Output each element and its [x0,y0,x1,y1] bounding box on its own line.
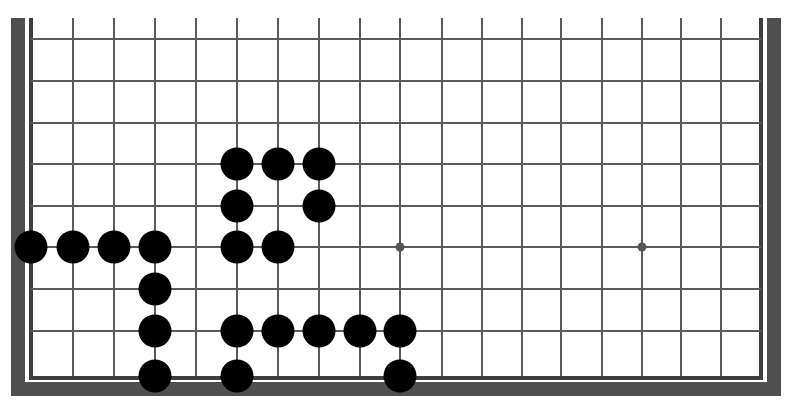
grid-line-vertical [113,18,115,376]
grid-line-vertical [481,18,483,376]
grid-line-vertical [680,18,682,376]
black-stone[interactable] [303,315,336,348]
grid-line-vertical [195,18,197,376]
board-frame-right [767,18,781,396]
black-stone[interactable] [221,360,254,393]
black-stone[interactable] [221,190,254,223]
black-stone[interactable] [139,315,172,348]
grid-line-vertical [441,18,443,376]
black-stone[interactable] [139,273,172,306]
grid-line-vertical [560,18,562,376]
black-stone[interactable] [303,148,336,181]
black-stone[interactable] [221,231,254,264]
board-edge-left [29,18,33,380]
grid-line-vertical [72,18,74,376]
grid-line-horizontal [31,163,761,165]
black-stone[interactable] [98,231,131,264]
black-stone[interactable] [57,231,90,264]
grid-line-vertical [720,18,722,376]
board-frame-left [11,18,25,396]
black-stone[interactable] [139,231,172,264]
black-stone[interactable] [384,360,417,393]
black-stone[interactable] [221,148,254,181]
black-stone[interactable] [384,315,417,348]
black-stone[interactable] [262,148,295,181]
black-stone[interactable] [221,315,254,348]
star-point-icon [638,243,647,252]
board-edge-right [759,18,763,380]
grid-line-vertical [521,18,523,376]
grid-line-horizontal [31,80,761,82]
grid-line-vertical [641,18,643,376]
grid-line-horizontal [31,38,761,40]
black-stone[interactable] [262,315,295,348]
black-stone[interactable] [262,231,295,264]
go-board[interactable] [0,0,795,402]
star-point-icon [396,243,405,252]
black-stone[interactable] [344,315,377,348]
grid-line-vertical [601,18,603,376]
grid-line-horizontal [31,122,761,124]
black-stone[interactable] [303,190,336,223]
grid-line-horizontal [31,205,761,207]
black-stone[interactable] [139,360,172,393]
black-stone[interactable] [15,231,48,264]
